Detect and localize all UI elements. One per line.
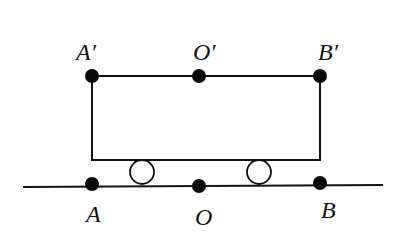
point-o (192, 179, 206, 193)
label-a-prime: A′ (74, 39, 97, 65)
label-o: O (195, 204, 212, 230)
label-o-prime: O′ (193, 39, 216, 65)
cart-diagram: A′ O′ B′ A O B (0, 0, 402, 240)
point-a-prime (85, 69, 99, 83)
point-b (313, 176, 327, 190)
point-o-prime (192, 69, 206, 83)
label-a: A (84, 201, 101, 227)
wheel-right (247, 160, 271, 184)
label-b: B (321, 197, 336, 223)
cart-body (92, 76, 320, 160)
point-b-prime (313, 69, 327, 83)
wheel-left (130, 160, 154, 184)
point-a (85, 177, 99, 191)
label-b-prime: B′ (318, 39, 339, 65)
